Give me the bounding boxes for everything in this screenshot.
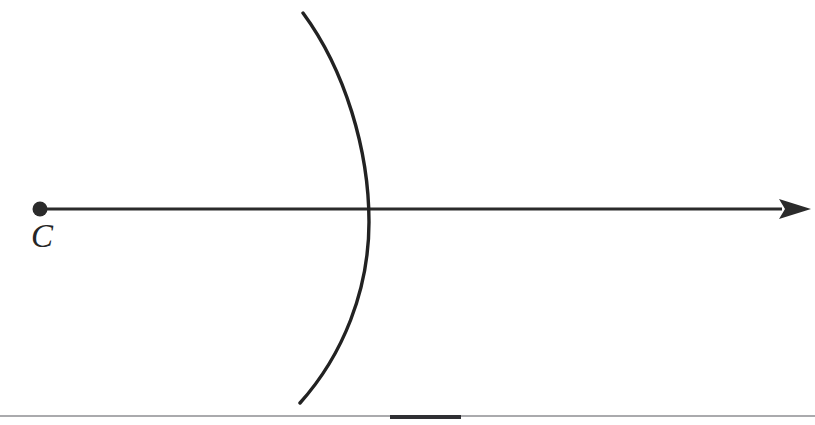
optics-diagram — [0, 0, 815, 425]
diagram-canvas: C — [0, 0, 815, 425]
principal-axis-arrow-icon — [779, 199, 811, 219]
centre-of-curvature-label: C — [31, 220, 53, 253]
centre-of-curvature-dot — [33, 202, 48, 217]
